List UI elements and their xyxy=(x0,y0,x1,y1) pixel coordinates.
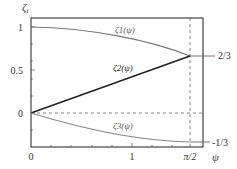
curve-zeta2 xyxy=(31,56,190,113)
x-tick-1: 1 xyxy=(130,151,135,162)
y-axis-title: ζi xyxy=(22,1,28,15)
x-tick-0: 0 xyxy=(29,151,34,162)
annotation-minus-one-third: -1/3 xyxy=(212,137,228,148)
y-tick-0-5: 0.5 xyxy=(11,65,24,76)
curve-label-zeta2: ζ2(ψ) xyxy=(113,63,133,73)
x-axis-title: ψ xyxy=(212,151,219,163)
y-tick-0: 0 xyxy=(18,108,23,119)
curve-label-zeta1: ζ1(ψ) xyxy=(115,25,135,35)
curve-label-zeta3: ζ3(ψ) xyxy=(113,121,133,131)
x-axis-ticks xyxy=(51,143,172,147)
annotation-two-thirds: 2/3 xyxy=(218,50,231,61)
y-tick-1: 1 xyxy=(18,22,23,33)
curve-zeta1 xyxy=(31,27,190,56)
curve-zeta3 xyxy=(31,113,190,142)
x-tick-pi-half: π/2 xyxy=(184,151,197,162)
chart: ζ1(ψ) ζ2(ψ) ζ3(ψ) ζi 1 0.5 0 0 1 π/2 ψ 2… xyxy=(0,0,237,169)
